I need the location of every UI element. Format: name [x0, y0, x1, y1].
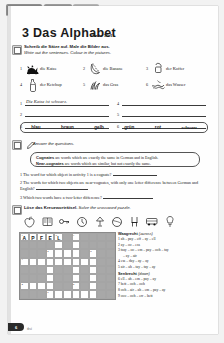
- crossword-cell[interactable]: [89, 290, 98, 298]
- crossword-cell[interactable]: [89, 282, 98, 290]
- water-icon: [151, 78, 166, 91]
- crossword-cell[interactable]: [72, 241, 81, 249]
- crossword-block: [46, 241, 55, 249]
- crossword-cell[interactable]: [72, 290, 81, 298]
- crossword-clue-number: 7: [73, 234, 74, 237]
- word-bank-item-rot[interactable]: rot: [155, 125, 161, 130]
- crossword-cell[interactable]: 2: [46, 249, 55, 257]
- crossword-cell[interactable]: [54, 249, 63, 257]
- crossword-cell[interactable]: [54, 241, 63, 249]
- crossword-cell[interactable]: [72, 266, 81, 274]
- question-2-answer-field[interactable]: [36, 189, 88, 190]
- crossword-block: [29, 266, 38, 274]
- crossword-cell[interactable]: [37, 258, 46, 266]
- question-1-text: 1 The word for which object in activity …: [20, 172, 111, 177]
- crossword-block: [89, 241, 98, 249]
- word-bank-item-schwarz[interactable]: schwarz: [181, 125, 196, 130]
- chair-icon: [127, 215, 142, 228]
- picture-item-2: 2 die Banane: [83, 62, 146, 75]
- crossword-cell[interactable]: [54, 290, 63, 298]
- crossword-cell[interactable]: 4: [20, 282, 29, 290]
- workbook-page: Kompetenz 1 Vokabeln 3 Das Alphabet Seit…: [0, 0, 224, 343]
- picture-item-5: 5 das Gras: [83, 78, 146, 91]
- question-3-answer-field[interactable]: [103, 198, 153, 199]
- crossword-cell[interactable]: [46, 282, 55, 290]
- exercise-a-instruction-en: Write out the sentences. Colour in the p…: [24, 50, 204, 56]
- crossword-clue-number: 3: [21, 258, 22, 261]
- answer-line-row: 1 Die Katze ist schwarz. 4: [20, 98, 206, 106]
- crossword-cell[interactable]: [46, 274, 55, 282]
- crossword-cell[interactable]: [72, 274, 81, 282]
- crossword-cell[interactable]: E: [46, 233, 55, 241]
- page-binding-edge: [8, 6, 11, 334]
- crossword-cell[interactable]: [89, 274, 98, 282]
- answer-cell[interactable]: 1 Die Katze ist schwarz.: [20, 98, 109, 106]
- page-title-number: 3: [22, 26, 29, 40]
- crossword-cell[interactable]: 8: [89, 249, 98, 257]
- exercise-a-badge: [12, 45, 22, 55]
- crossword-cell[interactable]: [63, 258, 72, 266]
- answer-rule[interactable]: [122, 110, 206, 118]
- picture-item-1: 1 die Katze: [20, 62, 83, 75]
- crossword-cell[interactable]: [63, 290, 72, 298]
- crossword-block: [37, 241, 46, 249]
- crossword-cell[interactable]: F: [37, 233, 46, 241]
- crossword-block: [29, 290, 38, 298]
- answer-cell[interactable]: 4: [117, 98, 206, 106]
- word-bank-item-gelb[interactable]: gelb: [94, 125, 103, 130]
- picture-item-3: 3 der Koffer: [146, 62, 209, 75]
- crossword-block: [106, 258, 115, 266]
- across-heading-en: (across): [139, 231, 153, 236]
- question-3-text: 3 Which two words have a two-letter diff…: [20, 195, 102, 200]
- page-reference: Seite 10-11: [92, 33, 115, 38]
- answer-line-row: 2 5: [20, 110, 206, 118]
- crossword-block: [89, 233, 98, 241]
- crossword-cell[interactable]: 9: [72, 282, 81, 290]
- crossword-cell[interactable]: [89, 266, 98, 274]
- crossword-cell[interactable]: 1A: [20, 233, 29, 241]
- answer-cell[interactable]: 2: [20, 110, 109, 118]
- down-heading-de: Senkrecht: [118, 271, 137, 276]
- crossword-cell[interactable]: [29, 282, 38, 290]
- crossword-cell[interactable]: 3: [20, 258, 29, 266]
- crossword-cell[interactable]: [29, 258, 38, 266]
- word-bank-item-braun[interactable]: braun: [61, 125, 74, 130]
- answer-rule[interactable]: Die Katze ist schwarz.: [25, 98, 109, 106]
- crossword-block: [97, 282, 106, 290]
- answer-cell[interactable]: 5: [117, 110, 206, 118]
- cognates-term: Cognates: [36, 155, 54, 160]
- question-2-row: 2 The words for which two objects are ne…: [20, 180, 206, 193]
- crossword-cell[interactable]: [72, 258, 81, 266]
- answer-rule[interactable]: [25, 110, 109, 118]
- crossword-cell[interactable]: [37, 282, 46, 290]
- crossword-block: [37, 249, 46, 257]
- crossword-cell[interactable]: [89, 258, 98, 266]
- question-1-row: 1 The word for which object in activity …: [20, 172, 206, 178]
- near-cognates-term: Near-cognates: [36, 161, 64, 166]
- crossword-cell[interactable]: [54, 258, 63, 266]
- crossword-cell[interactable]: [63, 249, 72, 257]
- crossword-cell[interactable]: [72, 249, 81, 257]
- word-bank-item-blau[interactable]: blau: [31, 125, 40, 130]
- page-footnote: drei: [27, 327, 32, 331]
- crossword-cell[interactable]: P: [29, 233, 38, 241]
- word-bank-item-gruen[interactable]: grün: [124, 125, 134, 130]
- crossword-grid[interactable]: 1A P F E 6L 7 2 8 3: [19, 232, 116, 300]
- crossword-block: [37, 290, 46, 298]
- question-3-row: 3 Which two words have a two-letter diff…: [20, 195, 206, 201]
- crossword-cell[interactable]: 6L: [54, 233, 63, 241]
- crossword-cell[interactable]: [46, 266, 55, 274]
- crossword-cell[interactable]: [46, 258, 55, 266]
- picture-item-5-word: das Gras: [103, 82, 118, 87]
- crossword-cell[interactable]: 7: [72, 233, 81, 241]
- crossword-cell[interactable]: [80, 290, 89, 298]
- apple-icon: [22, 215, 37, 228]
- page-number-tab: 6: [8, 323, 24, 331]
- answer-rule[interactable]: [122, 98, 206, 106]
- crossword-clue-number: 8: [90, 250, 91, 253]
- crossword-cell[interactable]: [80, 258, 89, 266]
- near-cognates-definition: Near-cognates are words which are simila…: [36, 161, 194, 167]
- crossword-cell[interactable]: 5: [46, 290, 55, 298]
- question-1-answer-field[interactable]: [113, 175, 157, 176]
- near-cognates-text: are words which are similar, but not exa…: [64, 161, 151, 166]
